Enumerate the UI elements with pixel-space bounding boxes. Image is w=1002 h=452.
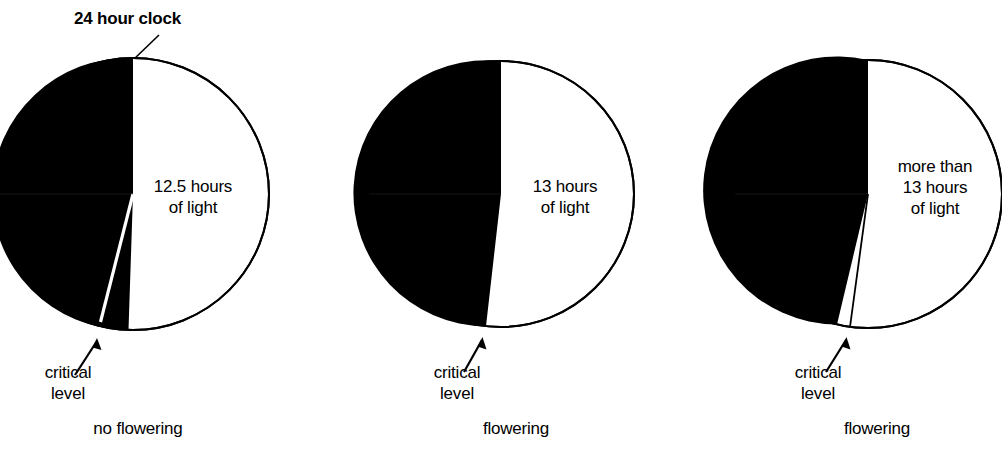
critical-label-line1-2: critical — [402, 362, 512, 383]
dark-period-sector-3 — [703, 56, 868, 324]
critical-label-line2-2: level — [402, 383, 512, 404]
clock-panel-3: more than 13 hours of light critical lev… — [668, 0, 1002, 452]
dark-period-sector-2 — [353, 60, 501, 326]
critical-label-line2-1: level — [13, 383, 123, 404]
light-label-line2-2: of light — [509, 197, 621, 218]
light-label-line1-1: 12.5 hours — [137, 176, 249, 197]
leader-line-24-hour-clock — [133, 35, 159, 60]
outcome-label-1: no flowering — [53, 418, 223, 439]
clock-panel-1: 24 hour clock 12.5 hours of light critic… — [0, 0, 334, 452]
outcome-label-2: flowering — [431, 418, 601, 439]
critical-label-line1-1: critical — [13, 362, 123, 383]
light-label-line2-1: of light — [137, 197, 249, 218]
light-label-line1-2: 13 hours — [509, 176, 621, 197]
critical-label-line1-3: critical — [763, 362, 873, 383]
critical-label-line2-3: level — [763, 383, 873, 404]
light-label-line2-3: 13 hours — [875, 177, 995, 198]
light-label-line3-3: of light — [875, 198, 995, 219]
clock-panel-2: 13 hours of light critical level floweri… — [334, 0, 668, 452]
figure-canvas: 24 hour clock 12.5 hours of light critic… — [0, 0, 1002, 452]
light-label-line1-3: more than — [875, 156, 995, 177]
label-24-hour-clock: 24 hour clock — [74, 8, 234, 29]
outcome-label-3: flowering — [792, 418, 962, 439]
